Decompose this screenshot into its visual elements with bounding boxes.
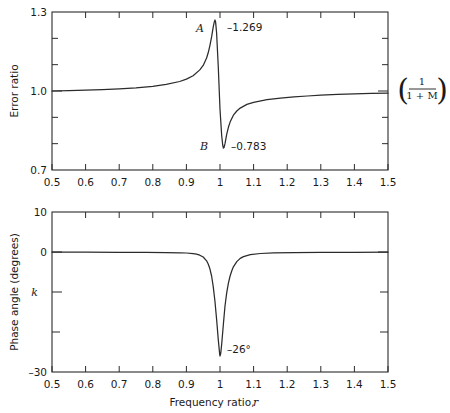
- bottom-ytick-label-3: –30: [28, 366, 47, 378]
- top-xtick-label-7: 1.2: [279, 176, 296, 188]
- bottom-xtick-label-10: 1.5: [380, 378, 397, 390]
- formula-numerator: 1: [419, 76, 425, 87]
- top-y-axis-title: Error ratio: [8, 64, 20, 117]
- top-xtick-label-9: 1.4: [346, 176, 363, 188]
- bottom-xtick-label-9: 1.4: [346, 378, 363, 390]
- annotation-point-b-value: –0.783: [231, 140, 266, 152]
- bottom-x-axis-title-text: Frequency ratio,: [169, 396, 254, 408]
- formula-denominator: 1 + M: [406, 90, 437, 101]
- top-panel: 1.3 1.0 0.7 0.5 0.6 0.7 0.8 0.9 1 1.1 1.…: [8, 6, 448, 188]
- bottom-y-ticks-right: [378, 252, 388, 332]
- bottom-x-axis-title: Frequency ratio, r: [169, 396, 259, 409]
- top-xtick-label-6: 1.1: [245, 176, 262, 188]
- top-error-ratio-curve: [52, 20, 388, 148]
- top-xtick-label-4: 0.9: [178, 176, 195, 188]
- top-xtick-label-1: 0.6: [77, 176, 94, 188]
- top-ytick-label-1: 1.3: [30, 6, 47, 18]
- bottom-x-axis-title-var: r: [253, 396, 259, 409]
- bottom-xtick-label-7: 1.2: [279, 378, 296, 390]
- top-ytick-label-3: 0.7: [30, 164, 47, 176]
- bottom-y-axis-title: Phase angle (degrees): [8, 233, 20, 351]
- bottom-ytick-label-0: 10: [34, 206, 47, 218]
- annotation-point-b-label: B: [199, 140, 208, 153]
- bottom-ytick-label-2: k: [31, 286, 38, 299]
- bottom-phase-angle-curve: [52, 252, 388, 356]
- top-x-ticks-upper: [86, 12, 355, 18]
- top-ytick-label-2: 1.0: [30, 85, 47, 97]
- top-y-ticks-right: [378, 38, 388, 143]
- bottom-xtick-label-4: 0.9: [178, 378, 195, 390]
- top-plot-frame: [52, 12, 388, 170]
- annotation-min-phase: –26°: [227, 343, 251, 355]
- bottom-xtick-label-1: 0.6: [77, 378, 94, 390]
- bottom-xtick-label-2: 0.7: [111, 378, 128, 390]
- top-xtick-label-10: 1.5: [380, 176, 397, 188]
- chart-svg: 1.3 1.0 0.7 0.5 0.6 0.7 0.8 0.9 1 1.1 1.…: [0, 0, 450, 413]
- bottom-y-ticks: [52, 252, 62, 332]
- bottom-x-ticks-upper: [86, 212, 355, 218]
- bottom-x-ticks: [52, 366, 388, 372]
- top-xtick-label-8: 1.3: [312, 176, 329, 188]
- bottom-xtick-label-3: 0.8: [144, 378, 161, 390]
- annotation-point-a-value: –1.269: [227, 21, 262, 33]
- bottom-xtick-label-5: 1: [217, 378, 224, 390]
- bottom-panel: 10 0 k –30 0.5 0.6 0.7 0.8 0.9 1 1.1 1.2…: [8, 206, 396, 409]
- top-xtick-label-5: 1: [217, 176, 224, 188]
- bottom-plot-frame: [52, 212, 388, 372]
- top-x-ticks: [52, 164, 388, 170]
- top-xtick-label-0: 0.5: [44, 176, 61, 188]
- top-xtick-label-3: 0.8: [144, 176, 161, 188]
- top-xtick-label-2: 0.7: [111, 176, 128, 188]
- bottom-xtick-label-0: 0.5: [44, 378, 61, 390]
- figure-container: 1.3 1.0 0.7 0.5 0.6 0.7 0.8 0.9 1 1.1 1.…: [0, 0, 450, 413]
- bottom-xtick-label-8: 1.3: [312, 378, 329, 390]
- bottom-ytick-label-1: 0: [40, 246, 47, 258]
- right-formula-annotation: ( 1 1 + M ): [397, 72, 448, 107]
- annotation-point-a-label: A: [195, 22, 204, 35]
- formula-paren-close: ): [436, 72, 448, 107]
- bottom-xtick-label-6: 1.1: [245, 378, 262, 390]
